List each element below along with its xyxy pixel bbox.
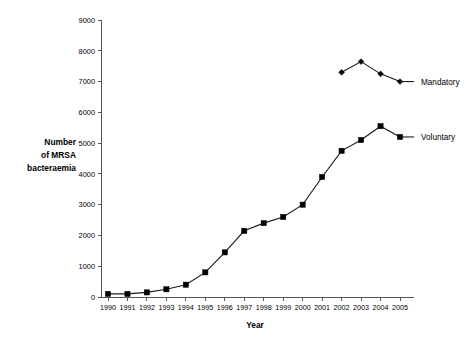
data-point-marker: [105, 291, 110, 296]
y-axis-tick-label: 9000: [79, 16, 95, 25]
x-axis-tick-label: 1997: [236, 303, 252, 312]
x-axis-tick-label: 1999: [275, 303, 291, 312]
x-axis-title: Year: [246, 320, 264, 330]
y-axis-tick-label: 3000: [79, 200, 95, 209]
data-point-marker: [339, 148, 344, 153]
chart-axes: [98, 20, 415, 301]
chart-series-group: [105, 59, 414, 297]
data-point-marker: [125, 291, 130, 296]
y-axis-title-line: bacteraemia: [27, 163, 76, 173]
x-axis-tick-label: 2000: [295, 303, 311, 312]
series-label-mandatory: Mandatory: [421, 78, 461, 87]
mrsa-bacteraemia-line-chart: 0100020003000400050006000700080009000 19…: [0, 0, 473, 342]
data-point-marker: [261, 221, 266, 226]
x-axis-tick-label: 1991: [119, 303, 135, 312]
x-axis-tick-label: 2004: [373, 303, 389, 312]
data-point-marker: [203, 270, 208, 275]
chart-canvas: 0100020003000400050006000700080009000 19…: [0, 0, 473, 342]
x-axis-tick-label: 1992: [139, 303, 155, 312]
y-axis-title-line: Number: [44, 137, 76, 147]
chart-series-labels: MandatoryVoluntary: [421, 78, 461, 142]
data-point-marker: [320, 174, 325, 179]
y-axis-tick-label: 0: [91, 293, 95, 302]
x-axis-tick-label: 2001: [314, 303, 330, 312]
y-axis-tick-label: 2000: [79, 231, 95, 240]
y-axis-tick-label: 5000: [79, 139, 95, 148]
data-point-marker: [183, 282, 188, 287]
y-axis-title-line: of MRSA: [41, 150, 76, 160]
data-point-marker: [242, 228, 247, 233]
series-voluntary: [105, 124, 414, 297]
y-axis-tick-label: 4000: [79, 170, 95, 179]
data-point-marker: [222, 250, 227, 255]
x-axis-tick-label: 1996: [217, 303, 233, 312]
x-axis-tick-label: 1990: [100, 303, 116, 312]
x-axis-tick-label: 2002: [334, 303, 350, 312]
x-axis-tick-label: 1994: [178, 303, 194, 312]
y-axis-tick-label: 1000: [79, 262, 95, 271]
series-line: [108, 126, 400, 294]
data-point-marker: [300, 202, 305, 207]
data-point-marker: [164, 287, 169, 292]
data-point-marker: [358, 137, 363, 142]
series-mandatory: [339, 59, 414, 85]
x-axis-tick-label: 1995: [197, 303, 213, 312]
y-axis-tick-label: 6000: [79, 108, 95, 117]
x-axis-tick-label: 2005: [392, 303, 408, 312]
data-point-marker: [281, 214, 286, 219]
y-axis-tick-labels: 0100020003000400050006000700080009000: [79, 16, 95, 302]
y-axis-title: Numberof MRSAbacteraemia: [27, 137, 77, 173]
y-axis-tick-label: 7000: [79, 77, 95, 86]
x-axis-tick-label: 1998: [256, 303, 272, 312]
data-point-marker: [339, 69, 345, 75]
series-line: [342, 62, 400, 82]
x-axis-tick-label: 1993: [158, 303, 174, 312]
x-axis-tick-labels: 1990199119921993199419951996199719981999…: [100, 303, 408, 312]
series-label-voluntary: Voluntary: [421, 133, 456, 142]
data-point-marker: [358, 59, 364, 65]
data-point-marker: [144, 290, 149, 295]
data-point-marker: [378, 124, 383, 129]
y-axis-tick-label: 8000: [79, 47, 95, 56]
x-axis-tick-label: 2003: [353, 303, 369, 312]
data-point-marker: [378, 71, 384, 77]
